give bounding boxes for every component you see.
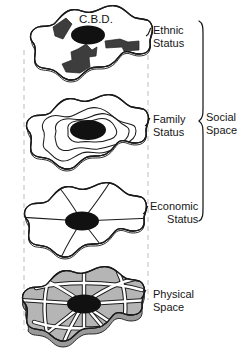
layer-label-ethnic: Ethnic Status xyxy=(153,24,184,49)
layer-family-status[interactable] xyxy=(27,95,149,171)
diagram-canvas: C.B.D. Ethnic Status Family Status Econo… xyxy=(0,0,242,361)
layer-label-physical: Physical Space xyxy=(153,288,194,313)
cbd-marker-economic[interactable] xyxy=(65,212,99,231)
layer-physical-space[interactable] xyxy=(20,266,150,348)
bracket-label-social-space: Social Space xyxy=(206,111,237,136)
social-space-diagram xyxy=(0,0,242,361)
layer-label-family: Family Status xyxy=(153,113,185,138)
cbd-marker-ethnic[interactable] xyxy=(71,26,105,45)
label-leaders xyxy=(141,28,151,298)
social-space-bracket xyxy=(199,21,203,221)
cbd-marker-family[interactable] xyxy=(70,120,106,140)
layer-economic-status[interactable] xyxy=(18,182,152,260)
cbd-marker-physical[interactable] xyxy=(67,295,101,314)
cbd-label: C.B.D. xyxy=(79,13,113,25)
bracket-curly-path xyxy=(199,21,203,221)
layer-label-economic: Economic Status xyxy=(150,200,198,225)
